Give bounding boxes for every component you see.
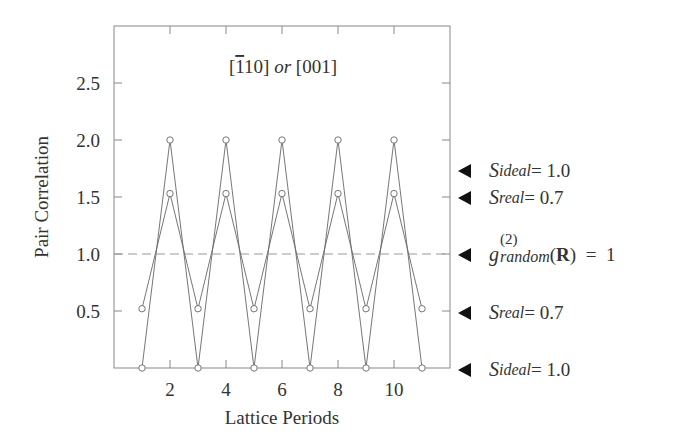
data-point-marker <box>335 190 341 196</box>
y-axis-label: Pair Correlation <box>31 136 52 258</box>
left-arrow-icon <box>458 191 471 205</box>
y-tick-label: 1.5 <box>76 187 100 208</box>
data-point-marker <box>307 365 313 371</box>
left-arrow-icon <box>458 306 471 320</box>
x-tick-label: 4 <box>221 379 231 400</box>
data-point-marker <box>139 365 145 371</box>
data-point-marker <box>167 137 173 143</box>
left-arrow-icon <box>458 164 471 178</box>
y-tick-label: 1.0 <box>76 244 100 265</box>
data-point-marker <box>419 306 425 312</box>
data-point-marker <box>223 190 229 196</box>
plot-axes: 2468100.51.01.52.02.5 <box>76 26 450 400</box>
data-point-marker <box>363 365 369 371</box>
x-tick-label: 10 <box>385 379 404 400</box>
data-point-marker <box>251 306 257 312</box>
data-point-marker <box>223 137 229 143</box>
chart-title: [110] or [001] <box>229 56 337 77</box>
y-tick-label: 2.0 <box>76 130 100 151</box>
data-point-marker <box>195 306 201 312</box>
y-tick-label: 2.5 <box>76 73 100 94</box>
y-tick-label: 0.5 <box>76 301 100 322</box>
annotation-g-random: g(2)random(R) = 1 <box>458 243 615 266</box>
pair-correlation-chart: 2468100.51.01.52.02.5 [110] or [001] Lat… <box>0 0 673 447</box>
x-tick-label: 2 <box>165 379 175 400</box>
annotation-s-ideal-bottom: Sideal = 1.0 <box>458 358 570 381</box>
data-point-marker <box>279 190 285 196</box>
series-line-1 <box>142 194 422 309</box>
data-point-marker <box>391 190 397 196</box>
annotation-s-ideal-top: Sideal = 1.0 <box>458 159 570 182</box>
left-arrow-icon <box>458 248 471 262</box>
data-point-marker <box>251 365 257 371</box>
data-point-marker <box>363 306 369 312</box>
data-point-marker <box>195 365 201 371</box>
x-axis-label: Lattice Periods <box>225 407 340 428</box>
data-point-marker <box>279 137 285 143</box>
data-point-marker <box>419 365 425 371</box>
annotation-s-real-top: Sreal = 0.7 <box>458 186 563 209</box>
data-point-marker <box>335 137 341 143</box>
data-point-marker <box>307 306 313 312</box>
left-arrow-icon <box>458 363 471 377</box>
data-point-marker <box>167 190 173 196</box>
data-point-marker <box>139 306 145 312</box>
annotation-s-real-bottom: Sreal = 0.7 <box>458 301 563 324</box>
x-tick-label: 6 <box>277 379 287 400</box>
x-tick-label: 8 <box>333 379 343 400</box>
data-point-marker <box>391 137 397 143</box>
